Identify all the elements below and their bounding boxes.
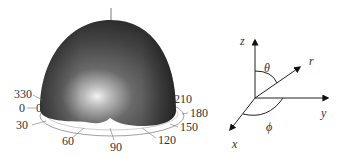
- z-label: z: [239, 34, 245, 48]
- angle-label: 120: [158, 133, 176, 147]
- phi-label: ϕ: [266, 120, 272, 134]
- theta-label: θ: [264, 61, 270, 75]
- angle-label: 330: [14, 87, 32, 101]
- angle-label: 0: [36, 101, 42, 115]
- angle-label: 0: [19, 101, 25, 115]
- dome-shading: [40, 20, 176, 126]
- phi-arc: [243, 98, 283, 115]
- radiation-pattern-3d: 330 0 0 30 60 90 120 150 180 210: [14, 8, 208, 154]
- angle-label: 90: [110, 140, 122, 154]
- angle-label: 30: [16, 118, 28, 132]
- coordinate-labels: z r y x θ ϕ: [231, 34, 327, 151]
- figure: 330 0 0 30 60 90 120 150 180 210 z r y x…: [0, 0, 345, 158]
- angle-label: 210: [174, 92, 192, 106]
- angle-label: 60: [62, 134, 74, 148]
- angle-label: 180: [190, 106, 208, 120]
- y-label: y: [320, 106, 327, 120]
- r-label: r: [309, 54, 314, 68]
- x-label: x: [231, 137, 238, 151]
- angle-label: 150: [180, 120, 198, 134]
- x-axis: [230, 98, 255, 130]
